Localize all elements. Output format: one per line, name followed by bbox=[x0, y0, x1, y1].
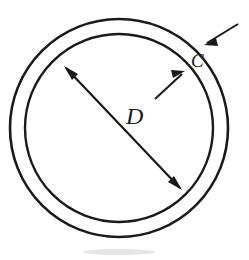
inner-circle bbox=[25, 34, 213, 222]
scan-artifact-smudge bbox=[83, 249, 155, 255]
annulus-figure: Annulus cross-section dimension diagram … bbox=[0, 0, 249, 260]
thickness-leader-inner bbox=[155, 74, 182, 99]
diameter-label: D bbox=[125, 103, 143, 129]
thickness-leader-outer bbox=[207, 24, 238, 43]
diameter-line bbox=[66, 68, 180, 188]
diameter-dimension bbox=[64, 66, 182, 190]
thickness-label: C bbox=[191, 50, 204, 71]
annulus-diagram-canvas: Annulus cross-section dimension diagram … bbox=[0, 0, 249, 260]
thickness-arrowhead-outer bbox=[204, 38, 218, 46]
